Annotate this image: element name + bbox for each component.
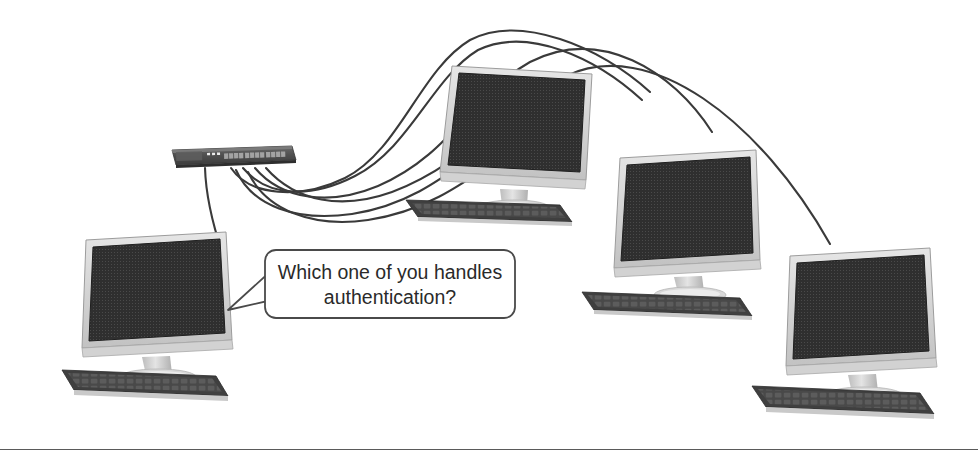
switch-led-indicators [207, 153, 220, 156]
keyboard-bottom-right[interactable] [752, 386, 934, 419]
speech-bubble-line-2: authentication? [324, 286, 456, 308]
workstation-middle-right[interactable] [582, 150, 761, 320]
workstation-bottom-right[interactable] [752, 248, 937, 419]
network-switch[interactable] [172, 146, 296, 168]
monitor-bottom-right[interactable] [786, 248, 937, 375]
workstation-top[interactable] [406, 66, 592, 226]
bottom-divider [0, 449, 978, 450]
speech-bubble-line-1: Which one of you handles [278, 261, 503, 283]
switch-vent [176, 151, 202, 161]
keyboard-left[interactable] [62, 370, 228, 401]
illustration-svg: Which one of you handles authentication? [0, 0, 978, 454]
speech-bubble: Which one of you handles authentication? [228, 250, 515, 318]
keyboard-middle-right[interactable] [582, 292, 752, 320]
keyboard-top[interactable] [406, 200, 572, 226]
monitor-top[interactable] [440, 66, 592, 189]
workstation-left[interactable] [62, 232, 233, 401]
figure-canvas: Which one of you handles authentication? [0, 0, 978, 454]
monitor-left[interactable] [82, 232, 233, 357]
monitor-middle-right[interactable] [614, 150, 761, 277]
